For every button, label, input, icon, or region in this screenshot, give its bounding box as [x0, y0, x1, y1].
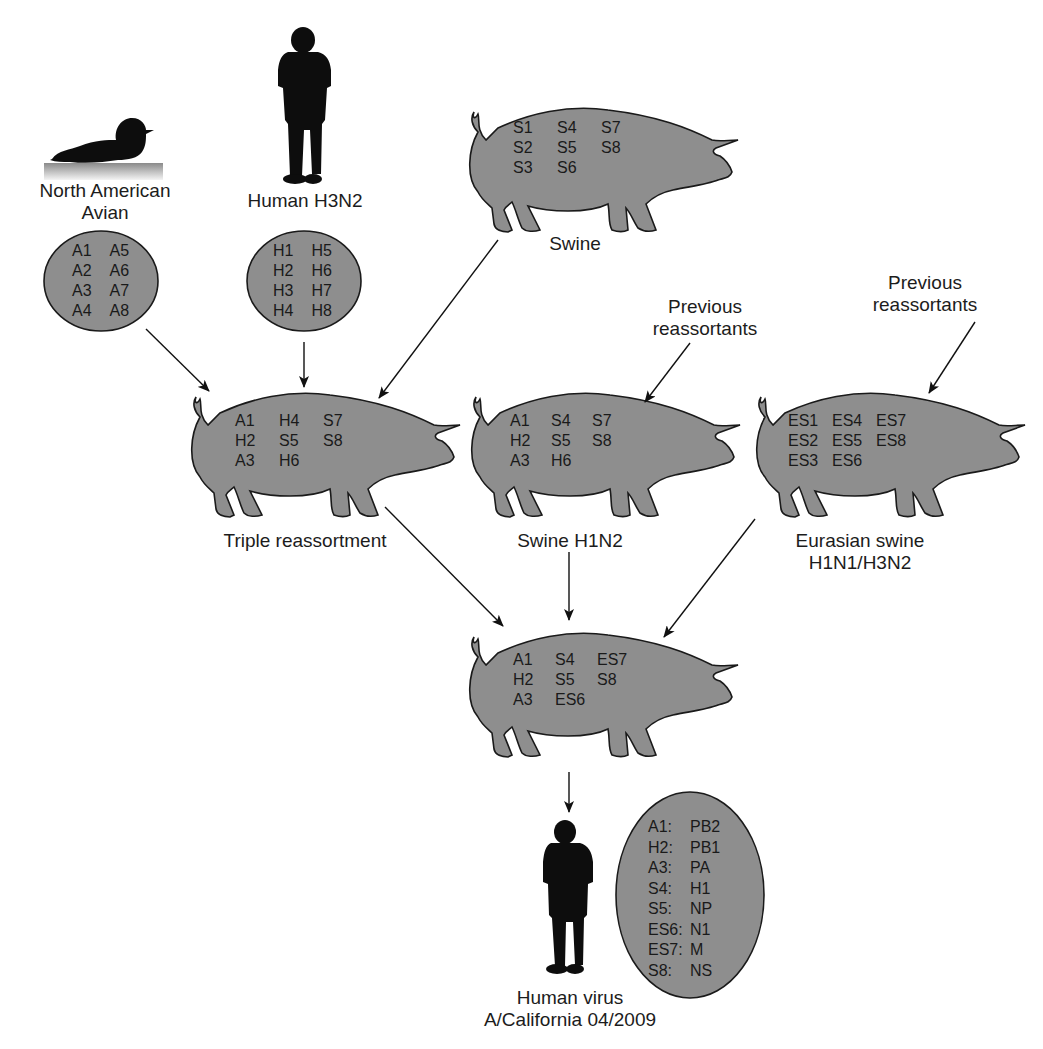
eurasian-label-line2: H1N1/H3N2	[770, 552, 950, 574]
segment	[592, 451, 620, 471]
segment: ES8	[876, 431, 912, 451]
prev-line2: reassortants	[870, 294, 980, 316]
human-h3n2-segments: H1 H5 H2 H6 H3 H7 H4 H8	[273, 241, 332, 321]
human-virus-silhouette	[543, 820, 593, 974]
duck-icon	[44, 118, 163, 180]
segment: S8	[601, 138, 629, 158]
triple-segments: A1 H4 S7 H2 S5 S8 A3 H6	[235, 411, 351, 471]
segment: ES7	[597, 650, 633, 670]
legend-gene: H1	[690, 879, 720, 900]
segment: H6	[551, 451, 579, 471]
swine-segments: S1 S4 S7 S2 S5 S8 S3 S6	[513, 118, 629, 178]
segment: A3	[72, 281, 92, 301]
segment: A1	[510, 411, 538, 431]
legend-segment: H2:	[648, 838, 690, 859]
segment: S5	[279, 431, 307, 451]
segment: A3	[510, 451, 538, 471]
legend-gene: NS	[690, 961, 720, 982]
segment: S8	[323, 431, 351, 451]
segment: H6	[311, 261, 331, 281]
legend-gene: PB2	[690, 817, 720, 838]
legend-segment: A3:	[648, 858, 690, 879]
prev-line1: Previous	[650, 296, 760, 318]
swine-label: Swine	[510, 233, 640, 255]
segment: H1	[273, 241, 293, 261]
legend-segment: ES6:	[648, 920, 690, 941]
segment: H8	[311, 301, 331, 321]
prev-line2: reassortants	[650, 318, 760, 340]
legend-gene: NP	[690, 899, 720, 920]
gene-legend: A1:PB2 H2:PB1 A3:PA S4:H1 S5:NP ES6:N1 E…	[648, 817, 720, 981]
segment: A2	[72, 261, 92, 281]
segment: S2	[513, 138, 541, 158]
segment: H2	[235, 431, 263, 451]
segment: A4	[72, 301, 92, 321]
segment: ES4	[832, 411, 868, 431]
segment: S5	[551, 431, 579, 451]
segment: S4	[551, 411, 579, 431]
segment: H2	[513, 670, 541, 690]
segment: A1	[235, 411, 263, 431]
swine-h1n2-label: Swine H1N2	[500, 530, 640, 552]
segment	[597, 690, 633, 710]
segment: H5	[311, 241, 331, 261]
arrow-prev-to-eurasian	[929, 322, 975, 393]
segment: ES6	[555, 690, 583, 710]
avian-label: North American Avian	[20, 180, 190, 224]
legend-gene: PA	[690, 858, 720, 879]
segment	[601, 158, 629, 178]
segment: S1	[513, 118, 541, 138]
segment: H3	[273, 281, 293, 301]
segment: A1	[513, 650, 541, 670]
segment: A3	[513, 690, 541, 710]
legend-gene: PB1	[690, 838, 720, 859]
eurasian-label-line1: Eurasian swine	[770, 530, 950, 552]
segment: S6	[557, 158, 585, 178]
legend-segment: ES7:	[648, 940, 690, 961]
legend-segment: S4:	[648, 879, 690, 900]
segment	[323, 451, 351, 471]
segment: ES2	[788, 431, 824, 451]
segment: A6	[110, 261, 130, 281]
segment: A7	[110, 281, 130, 301]
previous-reassortants-label-2: Previous reassortants	[870, 272, 980, 316]
segment: H4	[279, 411, 307, 431]
segment: S3	[513, 158, 541, 178]
final-pig-segments: A1 S4 ES7 H2 S5 S8 A3 ES6	[513, 650, 633, 710]
triple-reassortment-label: Triple reassortment	[200, 530, 410, 552]
legend-segment: A1:	[648, 817, 690, 838]
avian-segments: A1 A5 A2 A6 A3 A7 A4 A8	[72, 241, 129, 321]
segment: ES3	[788, 451, 824, 471]
segment: S4	[557, 118, 585, 138]
arrow-avian-to-triple	[146, 329, 209, 391]
segment: ES5	[832, 431, 868, 451]
segment: S7	[592, 411, 620, 431]
legend-segment: S8:	[648, 961, 690, 982]
segment: A1	[72, 241, 92, 261]
segment: S7	[323, 411, 351, 431]
segment: H6	[279, 451, 307, 471]
avian-label-line2: Avian	[20, 202, 190, 224]
segment: A5	[110, 241, 130, 261]
legend-gene: M	[690, 940, 720, 961]
segment: H7	[311, 281, 331, 301]
legend-segment: S5:	[648, 899, 690, 920]
arrow-prev-to-h1n2	[645, 343, 690, 402]
swine-h1n2-segments: A1 S4 S7 H2 S5 S8 A3 H6	[510, 411, 620, 471]
segment: S4	[555, 650, 583, 670]
arrow-triple-to-final	[385, 507, 503, 626]
segment: S8	[597, 670, 633, 690]
human-h3n2-label: Human H3N2	[220, 190, 390, 212]
segment: H4	[273, 301, 293, 321]
segment: H2	[273, 261, 293, 281]
avian-label-line1: North American	[20, 180, 190, 202]
segment: ES1	[788, 411, 824, 431]
segment: A8	[110, 301, 130, 321]
segment: S8	[592, 431, 620, 451]
segment: H2	[510, 431, 538, 451]
human-virus-label: Human virus A/California 04/2009	[470, 987, 670, 1031]
segment: S7	[601, 118, 629, 138]
segment: ES7	[876, 411, 912, 431]
legend-gene: N1	[690, 920, 720, 941]
arrow-eurasian-to-final	[664, 519, 755, 637]
